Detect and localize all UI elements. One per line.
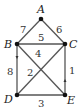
arrow-mark-C-E (64, 79, 67, 82)
node-label-C: C (69, 38, 78, 51)
node-label-A: A (36, 3, 45, 16)
node-label-E: E (66, 94, 75, 107)
weight-B-E: 4 (35, 48, 41, 59)
graph-diagram: A B C D E 7 6 5 4 2 8 1 3 (0, 0, 83, 108)
weight-B-C: 5 (38, 32, 44, 43)
weight-A-C: 6 (56, 24, 62, 35)
node-label-B: B (3, 38, 12, 51)
weight-C-E: 1 (69, 65, 75, 76)
node-A (39, 17, 44, 22)
weight-B-D: 8 (7, 66, 13, 77)
weight-C-D: 2 (27, 67, 33, 78)
node-D (15, 93, 20, 98)
weight-D-E: 3 (38, 98, 44, 108)
arrow-mark-B-D (16, 56, 19, 59)
weight-A-B: 7 (20, 24, 26, 35)
node-C (63, 42, 68, 47)
node-B (15, 42, 20, 47)
node-label-D: D (3, 93, 13, 106)
